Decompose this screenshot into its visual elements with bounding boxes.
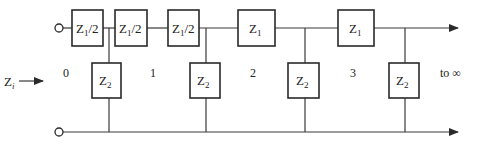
shunt-impedance-1: Z2 [92,63,121,98]
svg-text:Zi: Zi [4,74,15,91]
series-impedance-2: Z1/2 [115,10,147,46]
node-label-0: 0 [63,66,69,80]
node-label-3: 3 [350,66,356,80]
input-terminal-top [55,24,63,32]
series-impedance-4: Z1 [238,10,275,46]
shunt-impedance-2: Z2 [190,63,220,98]
ladder-network-diagram: Z1/2 Z1/2 Z1/2 Z1 Z1 Z2 Z2 Z2 Z2 Zi 0 1 … [0,0,478,148]
series-impedance-3: Z1/2 [168,10,199,46]
node-label-2: 2 [250,66,256,80]
node-label-1: 1 [150,66,156,80]
input-terminal-bottom [55,128,63,136]
series-impedance-5: Z1 [338,10,374,46]
termination-label: to ∞ [440,66,461,80]
series-impedance-1: Z1/2 [72,10,103,46]
shunt-impedance-4: Z2 [389,63,419,98]
shunt-impedance-3: Z2 [288,63,319,98]
input-impedance-label: Zi [4,74,15,91]
